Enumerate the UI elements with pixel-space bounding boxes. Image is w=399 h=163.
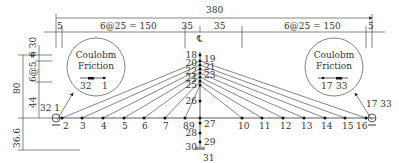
svg-text:14: 14 bbox=[321, 121, 333, 131]
right-cables-label: 6@25 = 150 bbox=[284, 21, 341, 31]
coulomb-friction-inset-left: Coulobm Friction 32 1 bbox=[57, 38, 125, 120]
svg-text:28: 28 bbox=[186, 128, 198, 138]
svg-text:31: 31 bbox=[203, 153, 214, 163]
svg-text:3: 3 bbox=[80, 121, 86, 131]
svg-text:17: 17 bbox=[321, 81, 333, 91]
center-right-label: 35 bbox=[214, 21, 226, 31]
svg-text:2: 2 bbox=[63, 121, 69, 131]
svg-text:26: 26 bbox=[186, 96, 198, 106]
center-left-label: 35 bbox=[182, 21, 194, 31]
bridge-diagram: 380 5 6@25 = 150 35 35 6@25 = 150 5 ℄ 80… bbox=[0, 0, 399, 163]
svg-text:4: 4 bbox=[101, 121, 107, 131]
svg-text:1: 1 bbox=[102, 81, 108, 91]
svg-text:16: 16 bbox=[356, 121, 368, 131]
left-cables-label: 6@25 = 150 bbox=[100, 21, 157, 31]
svg-text:12: 12 bbox=[280, 121, 291, 131]
svg-text:33: 33 bbox=[336, 81, 348, 91]
svg-text:10: 10 bbox=[238, 121, 250, 131]
vertical-dimensions: 80 6 6@5 = 30 44 36.6 bbox=[12, 37, 80, 150]
below-anchor-label: 44 bbox=[28, 96, 38, 108]
svg-text:13: 13 bbox=[301, 121, 313, 131]
svg-text:6: 6 bbox=[142, 121, 148, 131]
svg-text:11: 11 bbox=[259, 121, 270, 131]
left-edge-label: 5 bbox=[57, 21, 63, 31]
svg-text:32: 32 bbox=[80, 81, 91, 91]
svg-text:25: 25 bbox=[186, 80, 198, 90]
svg-text:15: 15 bbox=[342, 121, 354, 131]
svg-text:23: 23 bbox=[204, 70, 216, 80]
centerline-symbol: ℄ bbox=[196, 34, 203, 44]
sub-span-dimensions: 5 6@25 = 150 35 35 6@25 = 150 5 ℄ bbox=[44, 21, 385, 48]
right-edge-label: 5 bbox=[368, 21, 374, 31]
svg-text:Friction: Friction bbox=[78, 61, 114, 71]
left-end-label: 32 1 bbox=[40, 103, 60, 113]
below-deck-label: 36.6 bbox=[12, 128, 22, 148]
svg-text:5: 5 bbox=[122, 121, 128, 131]
svg-text:Friction: Friction bbox=[316, 61, 352, 71]
anchor-spacing-label: 6@5 = 30 bbox=[28, 37, 38, 82]
svg-text:Coulobm: Coulobm bbox=[76, 50, 117, 60]
coulomb-friction-inset-right: Coulobm Friction 17 33 bbox=[305, 38, 372, 120]
svg-text:30: 30 bbox=[186, 142, 198, 152]
deck-node-labels: 2 3 4 5 6 7 8 9 10 11 12 13 14 15 16 32 … bbox=[40, 99, 392, 131]
svg-text:29: 29 bbox=[204, 137, 216, 147]
tower-height-label: 80 bbox=[12, 82, 22, 94]
total-span-label: 380 bbox=[206, 5, 223, 15]
right-end-label: 17 33 bbox=[366, 99, 392, 109]
svg-text:Coulobm: Coulobm bbox=[314, 50, 355, 60]
svg-text:27: 27 bbox=[204, 119, 216, 129]
svg-text:7: 7 bbox=[163, 121, 169, 131]
